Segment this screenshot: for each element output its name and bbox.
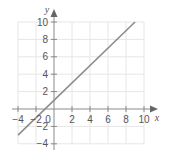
y-tick-label: 4 bbox=[42, 69, 48, 80]
y-tick-label: 8 bbox=[42, 34, 48, 45]
y-tick-label: 6 bbox=[42, 51, 48, 62]
y-tick-label: −2 bbox=[37, 121, 49, 132]
y-tick-label: −4 bbox=[37, 138, 49, 149]
x-tick-label: 10 bbox=[138, 114, 150, 125]
y-axis bbox=[51, 16, 57, 150]
x-tick-label: 6 bbox=[105, 114, 111, 125]
x-axis-label: x bbox=[154, 112, 160, 123]
chart: −4 −2 0 2 4 6 8 10 10 8 6 4 2 −2 −4 x y bbox=[0, 0, 170, 160]
x-tick-label: −4 bbox=[12, 114, 24, 125]
y-tick-label: 10 bbox=[37, 17, 49, 28]
x-tick-label: 4 bbox=[87, 114, 93, 125]
x-tick-label: 8 bbox=[123, 114, 129, 125]
x-axis bbox=[12, 106, 152, 112]
y-axis-label: y bbox=[44, 4, 50, 15]
y-axis-arrow-icon bbox=[51, 9, 58, 17]
x-tick-label: 2 bbox=[69, 114, 75, 125]
y-tick-label: 2 bbox=[42, 86, 48, 97]
